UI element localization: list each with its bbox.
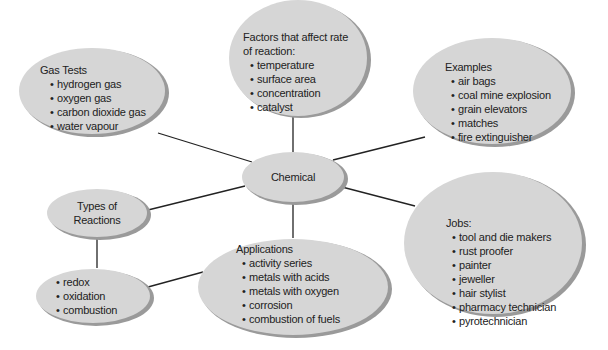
- node-title: Gas Tests: [40, 63, 146, 77]
- node-title-line2: Reactions: [47, 213, 147, 227]
- list-item: oxygen gas: [50, 91, 146, 105]
- node-center: Chemical: [243, 170, 343, 184]
- connector-gas-tests: [158, 133, 252, 162]
- list-item: coal mine explosion: [451, 88, 551, 102]
- node-gas-tests: Gas Tests hydrogen gas oxygen gas carbon…: [40, 63, 146, 133]
- list-item: redox: [56, 275, 117, 289]
- item-list: temperature surface area concentration c…: [243, 58, 348, 114]
- list-item: fire extinguisher: [451, 130, 551, 144]
- list-item: carbon dioxide gas: [50, 105, 146, 119]
- list-item: water vapour: [50, 119, 146, 133]
- list-item: surface area: [250, 72, 348, 86]
- node-types: Types of Reactions: [47, 199, 147, 227]
- connector-examples: [333, 137, 425, 160]
- node-factors: Factors that affect rate of reaction: te…: [243, 30, 348, 114]
- list-item: air bags: [451, 74, 551, 88]
- node-jobs: Jobs: tool and die makers rust proofer p…: [446, 216, 556, 328]
- list-item: temperature: [250, 58, 348, 72]
- list-item: rust proofer: [452, 244, 556, 258]
- list-item: corrosion: [242, 298, 340, 312]
- node-title: Jobs:: [446, 216, 556, 230]
- list-item: catalyst: [250, 100, 348, 114]
- list-item: combustion of fuels: [242, 312, 340, 326]
- list-item: concentration: [250, 86, 348, 100]
- connector-types: [148, 186, 245, 210]
- list-item: activity series: [242, 256, 340, 270]
- node-reaction-list: redox oxidation combustion: [56, 275, 117, 317]
- item-list: activity series metals with acids metals…: [236, 256, 340, 326]
- node-applications: Applications activity series metals with…: [236, 242, 340, 326]
- node-title: Applications: [236, 242, 340, 256]
- node-examples: Examples air bags coal mine explosion gr…: [445, 60, 551, 144]
- connector-jobs: [342, 187, 415, 206]
- item-list: air bags coal mine explosion grain eleva…: [445, 74, 551, 144]
- list-item: painter: [452, 258, 556, 272]
- center-label: Chemical: [243, 170, 343, 184]
- list-item: metals with oxygen: [242, 284, 340, 298]
- list-item: tool and die makers: [452, 230, 556, 244]
- node-title-line2: of reaction:: [243, 44, 348, 58]
- list-item: hair stylist: [452, 286, 556, 300]
- list-item: jeweller: [452, 272, 556, 286]
- item-list: redox oxidation combustion: [56, 275, 117, 317]
- item-list: hydrogen gas oxygen gas carbon dioxide g…: [40, 77, 146, 133]
- list-item: pyrotechnician: [452, 314, 556, 328]
- list-item: metals with acids: [242, 270, 340, 284]
- node-title: Types of: [47, 199, 147, 213]
- item-list: tool and die makers rust proofer painter…: [446, 230, 556, 328]
- list-item: oxidation: [56, 289, 117, 303]
- list-item: hydrogen gas: [50, 77, 146, 91]
- list-item: grain elevators: [451, 102, 551, 116]
- node-title: Examples: [445, 60, 551, 74]
- node-title: Factors that affect rate: [243, 30, 348, 44]
- list-item: pharmacy technician: [452, 300, 556, 314]
- list-item: combustion: [56, 303, 117, 317]
- connector-list-to-applications: [148, 272, 203, 287]
- list-item: matches: [451, 116, 551, 130]
